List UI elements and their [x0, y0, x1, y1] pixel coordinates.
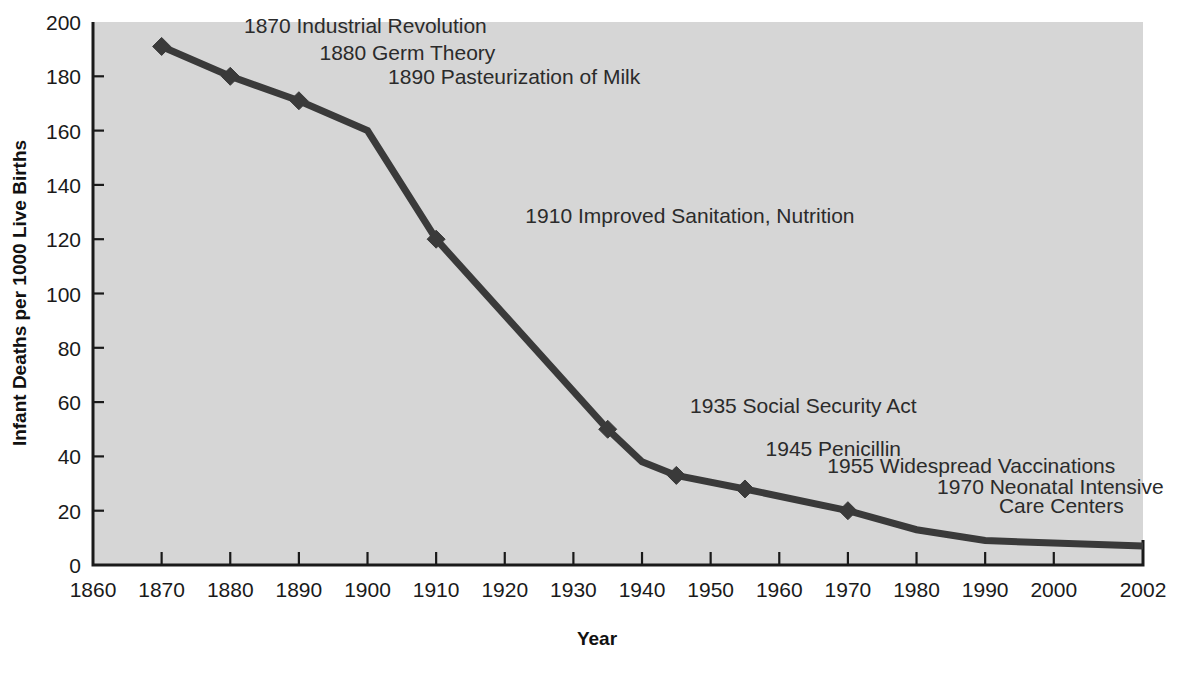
y-tick-label: 60 — [58, 391, 81, 414]
x-tick-label: 1860 — [70, 578, 117, 601]
y-axis-title: Infant Deaths per 1000 Live Births — [9, 140, 30, 446]
x-tick-label: 2000 — [1030, 578, 1077, 601]
y-tick-label: 160 — [46, 120, 81, 143]
y-tick-label: 120 — [46, 228, 81, 251]
chart-canvas: 020406080100120140160180200 186018701880… — [0, 0, 1190, 682]
y-tick-label: 20 — [58, 500, 81, 523]
x-tick-label: 1880 — [207, 578, 254, 601]
y-tick-label: 40 — [58, 445, 81, 468]
annotation-label-1: 1880 Germ Theory — [319, 41, 495, 64]
annotation-label-0: 1870 Industrial Revolution — [244, 14, 487, 37]
x-tick-label: 1890 — [276, 578, 323, 601]
x-tick-label: 1910 — [413, 578, 460, 601]
x-axis-title: Year — [577, 628, 618, 649]
x-tick-label: 1930 — [550, 578, 597, 601]
annotation-label-2: 1890 Pasteurization of Milk — [388, 65, 641, 88]
x-tick-label: 1920 — [481, 578, 528, 601]
annotation-label-8: Care Centers — [999, 494, 1124, 517]
infant-mortality-chart: 020406080100120140160180200 186018701880… — [0, 0, 1190, 682]
x-tick-label: 2002 — [1120, 578, 1167, 601]
annotation-label-6: 1955 Widespread Vaccinations — [827, 454, 1115, 477]
x-tick-label: 1970 — [825, 578, 872, 601]
x-tick-label: 1870 — [138, 578, 185, 601]
x-tick-label: 1950 — [687, 578, 734, 601]
x-tick-label: 1960 — [756, 578, 803, 601]
annotation-label-3: 1910 Improved Sanitation, Nutrition — [525, 204, 854, 227]
y-tick-label: 100 — [46, 283, 81, 306]
y-tick-label: 80 — [58, 337, 81, 360]
y-tick-label: 180 — [46, 65, 81, 88]
x-tick-label: 1980 — [893, 578, 940, 601]
x-tick-label: 1990 — [962, 578, 1009, 601]
x-tick-label: 1940 — [619, 578, 666, 601]
y-tick-label: 140 — [46, 174, 81, 197]
y-tick-label: 200 — [46, 11, 81, 34]
y-tick-label: 0 — [69, 554, 81, 577]
x-tick-label: 1900 — [344, 578, 391, 601]
annotation-label-4: 1935 Social Security Act — [690, 394, 917, 417]
